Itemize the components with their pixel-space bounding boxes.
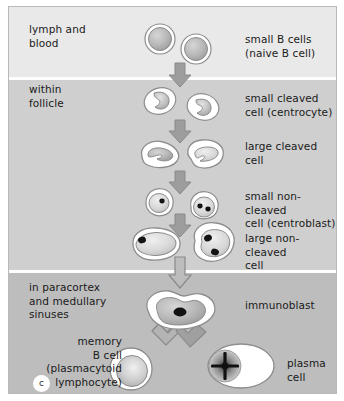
arrow-down-1 xyxy=(169,63,191,87)
figure-panel-c: lymph and blood within follicle in parac… xyxy=(0,0,344,401)
arrow-down-5 xyxy=(169,257,191,288)
arrow-down-2 xyxy=(169,120,191,143)
cell-plasma xyxy=(208,344,274,388)
cell-immunoblast xyxy=(147,291,215,329)
stage-label-small-b-cells: small B cells (naive B cell) xyxy=(245,33,315,60)
stage-label-immunoblast: immunoblast xyxy=(245,299,315,313)
cell-small-non-cleaved-1 xyxy=(146,189,173,216)
cell-large-cleaved-1 xyxy=(142,141,179,167)
cell-small-cleaved-2 xyxy=(184,90,222,124)
stage-label-plasma-cell: plasma cell xyxy=(287,357,326,384)
diagram-canvas: lymph and blood within follicle in parac… xyxy=(8,6,337,394)
arrow-down-3 xyxy=(169,171,191,194)
nucleolus xyxy=(159,199,164,204)
stage-label-small-non-cleaved-cell: small non-cleaved cell (centroblast) xyxy=(245,190,336,231)
cell-small-cleaved-1 xyxy=(141,84,179,119)
cell-large-non-cleaved-1 xyxy=(133,228,180,260)
compartment-label-lymph-and-blood: lymph and blood xyxy=(29,23,86,50)
compartment-label-within-follicle: within follicle xyxy=(29,83,64,110)
cell-large-cleaved-2 xyxy=(188,140,223,168)
stage-label-large-non-cleaved-cell: large non-cleaved cell xyxy=(245,232,336,273)
cell-small-b-2 xyxy=(181,34,211,64)
nucleolus xyxy=(197,204,202,209)
nucleolus xyxy=(174,308,187,317)
nucleolus xyxy=(205,207,210,212)
cell-small-b-1 xyxy=(145,24,175,54)
panel-letter-badge: c xyxy=(33,375,50,392)
cell-large-non-cleaved-2 xyxy=(194,223,234,262)
cell-small-non-cleaved-2 xyxy=(191,192,218,219)
stage-label-large-cleaved-cell: large cleaved cell xyxy=(245,140,317,167)
compartment-label-paracortex: in paracortex and medullary sinuses xyxy=(29,281,106,322)
stage-label-small-cleaved-cell: small cleaved cell (centrocyte) xyxy=(245,92,332,119)
